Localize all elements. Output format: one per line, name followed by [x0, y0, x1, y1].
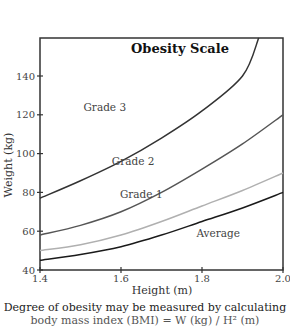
label-grade-3: Grade 3	[83, 101, 126, 113]
chart-title: Obesity Scale	[131, 41, 229, 56]
x-axis-title: Height (m)	[132, 284, 193, 297]
curve-grade-1	[40, 173, 283, 251]
label-average: Average	[195, 227, 240, 239]
label-grade-1: Grade 1	[120, 188, 163, 200]
y-axis-title: Weight (kg)	[2, 133, 15, 198]
x-tick-label: 1.6	[113, 273, 129, 284]
x-tick-label: 1.4	[32, 273, 48, 284]
y-tick-label: 120	[16, 109, 35, 120]
curve-grade-2	[40, 115, 283, 235]
axis-ticks: 4060801001201401.41.61.82.0	[16, 71, 290, 285]
caption-line-1: Degree of obesity may be measured by cal…	[0, 301, 290, 314]
y-tick-label: 100	[16, 148, 35, 159]
x-tick-label: 1.8	[194, 273, 210, 284]
y-tick-label: 140	[16, 71, 35, 82]
y-tick-label: 80	[22, 187, 35, 198]
curve-labels: AverageGrade 1Grade 2Grade 3	[83, 101, 239, 239]
curve-grade-3	[40, 38, 259, 198]
curves	[40, 38, 283, 260]
label-grade-2: Grade 2	[112, 155, 155, 167]
obesity-scale-chart: 4060801001201401.41.61.82.0 Obesity Scal…	[0, 0, 290, 300]
caption-line-2: body mass index (BMI) = W (kg) / H² (m)	[0, 314, 290, 327]
x-tick-label: 2.0	[275, 273, 290, 284]
y-tick-label: 60	[22, 226, 35, 237]
